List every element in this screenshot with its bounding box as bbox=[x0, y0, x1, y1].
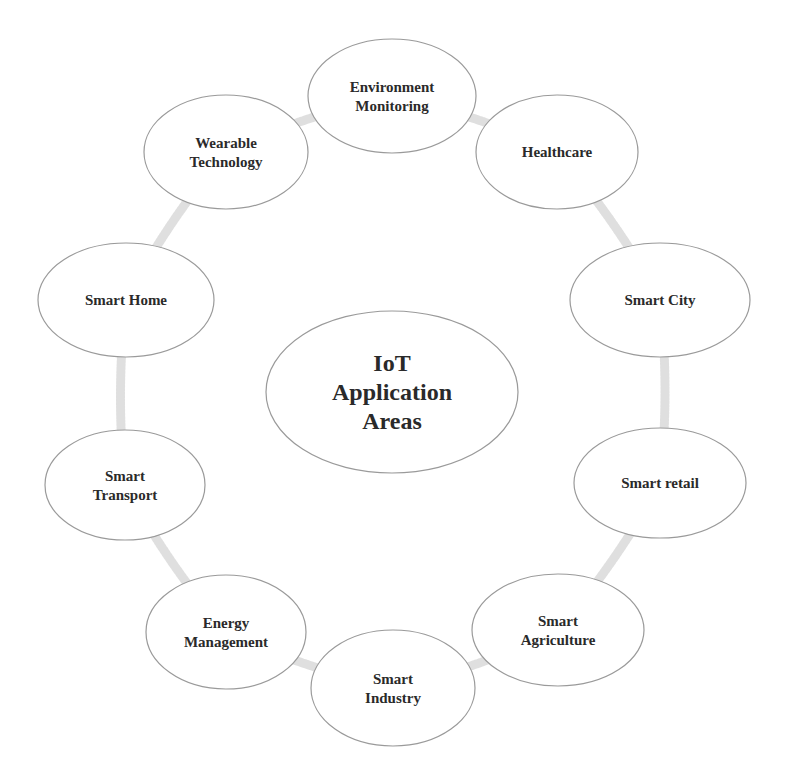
node-smart-transport-label: Transport bbox=[93, 487, 158, 503]
node-energy-management-ellipse bbox=[146, 575, 306, 689]
node-energy-management: EnergyManagement bbox=[146, 575, 306, 689]
node-smart-city: Smart City bbox=[570, 243, 750, 357]
node-healthcare-label: Healthcare bbox=[522, 144, 593, 160]
node-smart-agriculture-label: Agriculture bbox=[521, 632, 596, 648]
node-energy-management-label: Energy bbox=[203, 615, 250, 631]
node-smart-retail-label: Smart retail bbox=[621, 475, 699, 491]
node-healthcare: Healthcare bbox=[476, 95, 638, 209]
center-iot-application-areas-label: Application bbox=[332, 379, 452, 405]
center-node: IoTApplicationAreas bbox=[266, 311, 518, 473]
node-environment-monitoring-label: Environment bbox=[350, 79, 435, 95]
node-smart-agriculture-ellipse bbox=[472, 574, 644, 686]
node-smart-industry-label: Industry bbox=[365, 690, 421, 706]
center-iot-application-areas: IoTApplicationAreas bbox=[266, 311, 518, 473]
node-smart-industry-label: Smart bbox=[373, 671, 413, 687]
node-smart-retail: Smart retail bbox=[574, 428, 746, 538]
iot-application-areas-diagram: EnvironmentMonitoringHealthcareSmart Cit… bbox=[0, 0, 797, 779]
node-wearable-technology-label: Wearable bbox=[195, 135, 257, 151]
node-smart-city-label: Smart City bbox=[624, 292, 696, 308]
node-energy-management-label: Management bbox=[184, 634, 268, 650]
node-smart-agriculture-label: Smart bbox=[538, 613, 578, 629]
center-iot-application-areas-label: Areas bbox=[362, 408, 422, 434]
node-wearable-technology: WearableTechnology bbox=[144, 95, 308, 209]
node-smart-home-label: Smart Home bbox=[85, 292, 167, 308]
node-smart-transport: SmartTransport bbox=[45, 430, 205, 540]
node-wearable-technology-ellipse bbox=[144, 95, 308, 209]
center-iot-application-areas-label: IoT bbox=[373, 350, 410, 376]
node-smart-home: Smart Home bbox=[38, 243, 214, 357]
node-environment-monitoring-ellipse bbox=[308, 39, 476, 153]
node-environment-monitoring-label: Monitoring bbox=[355, 98, 429, 114]
node-wearable-technology-label: Technology bbox=[190, 154, 263, 170]
node-smart-industry: SmartIndustry bbox=[311, 630, 475, 746]
node-smart-agriculture: SmartAgriculture bbox=[472, 574, 644, 686]
node-environment-monitoring: EnvironmentMonitoring bbox=[308, 39, 476, 153]
node-smart-transport-ellipse bbox=[45, 430, 205, 540]
node-smart-industry-ellipse bbox=[311, 630, 475, 746]
node-smart-transport-label: Smart bbox=[105, 468, 145, 484]
